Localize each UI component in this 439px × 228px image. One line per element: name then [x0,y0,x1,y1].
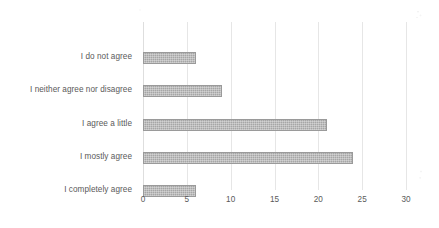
value-tick-label-15: 15 [270,195,279,205]
category-axis-labels: I do not agree I neither agree nor disag… [0,22,138,190]
scan-artifact-icon [417,168,425,182]
bar-2 [143,119,327,131]
gridline-20 [318,22,319,190]
value-tick-label-0: 0 [141,195,146,205]
gridline-0 [143,22,144,190]
bar-0 [143,52,196,64]
gridline-5 [187,22,188,190]
bar-chart-figure: I do not agree I neither agree nor disag… [0,0,439,228]
category-label-4: I completely agree [0,185,132,195]
category-label-1: I neither agree nor disagree [0,85,132,95]
bar-1 [143,85,222,97]
gridline-10 [231,22,232,190]
value-tick-label-20: 20 [314,195,323,205]
scan-artifact-icon [137,6,143,14]
category-label-2: I agree a little [0,119,132,129]
value-axis: 051015202530 [143,190,406,210]
gridline-25 [362,22,363,190]
scan-artifact-icon [414,8,424,20]
value-tick-label-10: 10 [226,195,235,205]
value-tick-label-25: 25 [358,195,367,205]
value-tick-label-30: 30 [401,195,410,205]
plot-area [143,22,406,190]
category-label-3: I mostly agree [0,152,132,162]
gridline-15 [275,22,276,190]
category-label-0: I do not agree [0,52,132,62]
gridline-30 [406,22,407,190]
bar-3 [143,152,353,164]
value-tick-label-5: 5 [185,195,190,205]
